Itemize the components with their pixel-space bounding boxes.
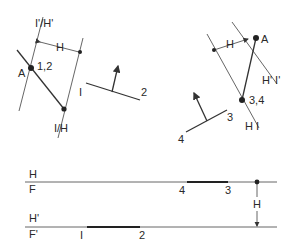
- normal-arrow-12: [112, 66, 118, 92]
- normal-arrow-34: [194, 93, 207, 121]
- left-view: I'/H' H A 1,2 I/H: [17, 17, 83, 138]
- label-end-2: 2: [141, 86, 147, 98]
- label-point-12: 1,2: [37, 60, 52, 72]
- connector-a-to-bottom: [17, 50, 64, 109]
- label-i-h: I/H: [54, 122, 68, 134]
- label-fold-f-prime: F': [29, 228, 38, 240]
- label-h-prime-i-prime: H' I': [262, 74, 280, 86]
- fold-lines: H F 4 3 H' F' I 2 H: [25, 168, 277, 241]
- label-h-i: H I: [245, 120, 259, 132]
- edge-34-view: 4 3: [178, 93, 233, 145]
- label-end-4: 4: [178, 133, 184, 145]
- label-fold-1: I: [80, 229, 83, 241]
- label-fold-h: H: [29, 168, 37, 180]
- label-distance-h-right: H: [226, 38, 234, 50]
- label-i-prime-h-prime: I'/H': [35, 17, 53, 29]
- bottom-dot: [61, 106, 66, 111]
- point-34-dot: [239, 97, 245, 103]
- label-fold-distance-h: H: [253, 198, 261, 210]
- connector-a-to-34: [242, 38, 256, 100]
- label-point-a: A: [18, 67, 26, 79]
- edge-12-view: I 2: [79, 66, 147, 100]
- fold-distance-dot: [255, 180, 260, 185]
- label-fold-2: 2: [139, 229, 145, 241]
- label-fold-3: 3: [225, 184, 231, 196]
- label-point-a-right: A: [261, 33, 269, 45]
- point-a-dot: [28, 65, 34, 71]
- reference-dot-right: [212, 48, 216, 52]
- label-fold-h-prime: H': [29, 212, 39, 224]
- point-a-dot-right: [253, 35, 259, 41]
- label-end-1: I: [79, 86, 82, 98]
- label-fold-4: 4: [179, 184, 185, 196]
- label-fold-f: F: [29, 183, 36, 195]
- label-point-34: 3,4: [249, 94, 264, 106]
- label-end-3: 3: [227, 111, 233, 123]
- descriptive-geometry-diagram: I'/H' H A 1,2 I/H I 2 H A H' I' 3,4 H I …: [0, 0, 293, 248]
- label-distance-h: H: [56, 41, 64, 53]
- reference-dot: [78, 50, 82, 54]
